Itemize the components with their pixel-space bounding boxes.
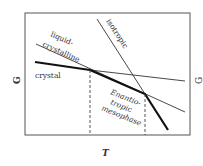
y-axis-label: G xyxy=(12,76,22,84)
label-isotropic: isotropic xyxy=(104,17,130,50)
label-crystal: crystal xyxy=(35,71,61,80)
label-crystalline: crystalline xyxy=(41,40,82,65)
gibbs-energy-diagram: liquid- crystalline isotropic crystal En… xyxy=(0,0,203,166)
right-cut-label: G xyxy=(194,77,203,84)
x-axis-label: T xyxy=(102,148,110,158)
